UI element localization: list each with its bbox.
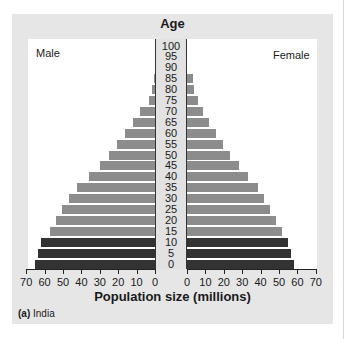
female-bar-25 (187, 205, 270, 214)
male-tick-label-40: 40 (71, 276, 91, 288)
female-bar-85 (187, 74, 193, 83)
female-tick-label-0: 0 (177, 276, 197, 288)
female-bar-0 (187, 260, 294, 269)
female-tick-label-60: 60 (287, 276, 307, 288)
male-tick-label-70: 70 (16, 276, 36, 288)
male-tick-label-50: 50 (53, 276, 73, 288)
female-tick-60 (297, 269, 298, 274)
age-label-0: 0 (155, 259, 187, 270)
female-bar-75 (187, 96, 198, 105)
caption-text: India (33, 308, 55, 319)
male-bar-35 (77, 183, 155, 192)
age-axis-title: Age (155, 16, 190, 31)
female-tick-70 (316, 269, 317, 274)
age-label-45: 45 (155, 160, 187, 171)
female-bar-45 (187, 161, 239, 170)
male-tick-60 (45, 269, 46, 274)
male-label: Male (36, 47, 60, 59)
age-label-95: 95 (155, 51, 187, 62)
age-label-40: 40 (155, 171, 187, 182)
female-bar-65 (187, 118, 209, 127)
male-bar-30 (69, 194, 155, 203)
male-bar-50 (109, 151, 155, 160)
male-bar-70 (140, 107, 155, 116)
female-bar-35 (187, 183, 258, 192)
age-label-55: 55 (155, 139, 187, 150)
male-bar-5 (38, 249, 155, 258)
female-bar-10 (187, 238, 288, 247)
female-bar-5 (187, 249, 291, 258)
age-label-80: 80 (155, 84, 187, 95)
male-tick-label-20: 20 (108, 276, 128, 288)
female-tick-label-70: 70 (306, 276, 326, 288)
male-tick-70 (26, 269, 27, 274)
female-bar-50 (187, 151, 230, 160)
caption-prefix: (a) (18, 308, 30, 319)
female-tick-0 (187, 269, 188, 274)
age-label-100: 100 (155, 41, 187, 52)
male-bar-0 (35, 260, 155, 269)
male-tick-label-0: 0 (145, 276, 165, 288)
female-bar-30 (187, 194, 264, 203)
female-bar-70 (187, 107, 203, 116)
age-label-50: 50 (155, 150, 187, 161)
age-label-65: 65 (155, 117, 187, 128)
female-tick-label-50: 50 (269, 276, 289, 288)
male-bar-15 (50, 227, 155, 236)
male-tick-40 (81, 269, 82, 274)
male-bar-25 (62, 205, 155, 214)
male-bar-65 (133, 118, 155, 127)
male-tick-30 (100, 269, 101, 274)
male-tick-50 (63, 269, 64, 274)
male-tick-label-10: 10 (127, 276, 147, 288)
x-axis-title: Population size (millions) (0, 289, 345, 304)
female-tick-label-40: 40 (251, 276, 271, 288)
female-bar-60 (187, 129, 216, 138)
female-bar-40 (187, 172, 248, 181)
male-tick-label-30: 30 (90, 276, 110, 288)
age-label-15: 15 (155, 226, 187, 237)
female-label: Female (273, 49, 310, 61)
age-label-10: 10 (155, 237, 187, 248)
female-bar-20 (187, 216, 276, 225)
age-label-70: 70 (155, 106, 187, 117)
male-bar-20 (56, 216, 155, 225)
male-bar-60 (125, 129, 155, 138)
age-label-5: 5 (155, 248, 187, 259)
male-bar-55 (117, 140, 155, 149)
male-tick-10 (137, 269, 138, 274)
age-label-75: 75 (155, 95, 187, 106)
male-tick-label-60: 60 (35, 276, 55, 288)
female-tick-10 (205, 269, 206, 274)
female-tick-30 (242, 269, 243, 274)
age-label-90: 90 (155, 62, 187, 73)
age-label-20: 20 (155, 215, 187, 226)
age-label-60: 60 (155, 128, 187, 139)
female-bar-15 (187, 227, 282, 236)
male-bar-10 (41, 238, 155, 247)
female-tick-50 (279, 269, 280, 274)
age-label-30: 30 (155, 193, 187, 204)
male-tick-20 (118, 269, 119, 274)
female-tick-40 (261, 269, 262, 274)
age-label-35: 35 (155, 182, 187, 193)
figure-caption: (a) India (18, 308, 55, 319)
female-bar-80 (187, 85, 194, 94)
male-bar-40 (89, 172, 155, 181)
female-tick-label-20: 20 (214, 276, 234, 288)
female-tick-20 (224, 269, 225, 274)
age-label-85: 85 (155, 73, 187, 84)
age-label-25: 25 (155, 204, 187, 215)
female-bar-55 (187, 140, 223, 149)
female-tick-label-10: 10 (195, 276, 215, 288)
male-bar-45 (100, 161, 155, 170)
male-tick-0 (155, 269, 156, 274)
female-tick-label-30: 30 (232, 276, 252, 288)
